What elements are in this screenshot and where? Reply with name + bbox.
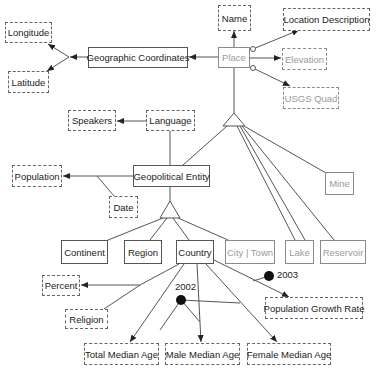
entity-reservoir: Reservoir — [320, 240, 366, 264]
entity-geopolitical-entity: Geopolitical Entity — [133, 165, 210, 187]
attr-population: Population — [12, 165, 62, 187]
attr-latitude-label: Latitude — [12, 77, 46, 88]
attr-total-median-age-label: Total Median Age — [85, 349, 158, 360]
attr-usgs-quad-label: USGS Quad — [285, 93, 338, 104]
attr-female-median-age: Female Median Age — [247, 343, 331, 365]
attr-longitude-label: Longitude — [8, 27, 50, 38]
entity-region: Region — [124, 240, 162, 264]
attr-name: Name — [218, 5, 251, 31]
attr-usgs-quad: USGS Quad — [283, 87, 339, 109]
attr-elevation-label: Elevation — [285, 54, 324, 65]
entity-lake-label: Lake — [289, 247, 310, 258]
attr-latitude: Latitude — [8, 71, 49, 93]
connector-place-locdesc — [253, 30, 299, 49]
connector-country-male-median-age — [197, 264, 201, 342]
attr-religion: Religion — [65, 309, 108, 329]
attr-percent: Percent — [42, 275, 80, 296]
entity-reservoir-label: Reservoir — [323, 247, 364, 258]
entity-lake: Lake — [285, 240, 314, 264]
annotation-2002: 2002 — [175, 281, 196, 292]
connector-place-usgs — [253, 68, 290, 86]
attr-male-median-age: Male Median Age — [165, 343, 240, 365]
optional-marker-locdesc — [251, 47, 256, 52]
entity-city-town-label: City | Town — [227, 247, 273, 258]
entity-country-label: Country — [178, 247, 211, 258]
date-dot-2002 — [176, 295, 186, 305]
attr-speakers-label: Speakers — [72, 115, 112, 126]
entity-place-label: Place — [222, 52, 246, 63]
connector-latitude — [47, 57, 69, 71]
entity-country: Country — [176, 240, 214, 264]
entity-region-label: Region — [128, 247, 158, 258]
entity-continent: Continent — [61, 240, 108, 264]
attr-elevation: Elevation — [282, 48, 327, 70]
entity-geopolitical-entity-label: Geopolitical Entity — [133, 171, 209, 182]
attr-location-description: Location Description — [283, 8, 370, 31]
attr-language-label: Language — [149, 115, 191, 126]
entity-mine-label: Mine — [329, 178, 350, 189]
attr-percent-label: Percent — [45, 280, 78, 291]
attr-date: Date — [109, 196, 138, 218]
attr-female-median-age-label: Female Median Age — [247, 349, 332, 360]
attr-language: Language — [146, 110, 195, 131]
date-dot-2003 — [264, 271, 274, 281]
attr-population-growth-rate-label: Population Growth Rate — [264, 303, 365, 314]
annotation-2003: 2003 — [277, 269, 298, 280]
attr-male-median-age-label: Male Median Age — [166, 349, 239, 360]
entity-place: Place — [218, 47, 250, 68]
entity-continent-label: Continent — [64, 247, 105, 258]
connector-longitude — [48, 44, 69, 57]
attr-location-description-label: Location Description — [283, 14, 369, 25]
entity-geographic-coordinates: Geographic Coordinates — [88, 47, 188, 68]
attr-name-label: Name — [222, 13, 247, 24]
entity-city-town: City | Town — [225, 240, 275, 264]
attr-speakers: Speakers — [68, 110, 116, 131]
entity-geographic-coordinates-label: Geographic Coordinates — [87, 52, 190, 63]
attr-population-growth-rate: Population Growth Rate — [265, 297, 363, 319]
attr-population-label: Population — [15, 171, 60, 182]
attr-date-label: Date — [113, 202, 133, 213]
attr-longitude: Longitude — [5, 22, 52, 43]
attr-total-median-age: Total Median Age — [84, 343, 159, 365]
attr-religion-label: Religion — [69, 314, 103, 325]
entity-mine: Mine — [325, 172, 354, 195]
optional-marker-usgs — [251, 66, 256, 71]
